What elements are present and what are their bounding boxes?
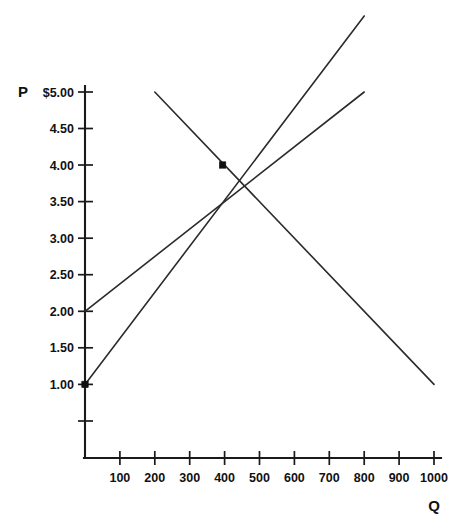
y-label-400: 4.00 — [50, 159, 74, 173]
chart-canvas: $5.00 4.50 4.00 3.50 3.00 2.50 2.00 1.50… — [0, 0, 468, 529]
y-label-100: 1.00 — [50, 378, 74, 392]
y-label-450: 4.50 — [50, 122, 74, 136]
x-label-1000: 1000 — [420, 471, 448, 485]
supply-curve-upper — [85, 92, 364, 311]
x-label-500: 500 — [249, 471, 270, 485]
x-label-400: 400 — [214, 471, 235, 485]
y-label-150: 1.50 — [50, 341, 74, 355]
x-label-600: 600 — [284, 471, 305, 485]
x-label-100: 100 — [109, 471, 130, 485]
x-axis-title: Q — [428, 497, 440, 514]
y-tick-labels-group: $5.00 4.50 4.00 3.50 3.00 2.50 2.00 1.50… — [43, 86, 74, 392]
marker-equilibrium — [219, 162, 225, 168]
x-label-800: 800 — [354, 471, 375, 485]
x-tick-labels-group: 100 200 300 400 500 600 700 800 900 1000 — [109, 471, 447, 485]
x-label-900: 900 — [389, 471, 410, 485]
x-label-200: 200 — [144, 471, 165, 485]
axes-group — [84, 86, 441, 458]
supply-demand-chart: $5.00 4.50 4.00 3.50 3.00 2.50 2.00 1.50… — [0, 0, 468, 529]
y-label-350: 3.50 — [50, 195, 74, 209]
curves-group — [85, 16, 434, 384]
y-label-300: 3.00 — [50, 232, 74, 246]
markers-group — [82, 162, 226, 388]
axis-titles-group: P Q — [18, 83, 440, 514]
x-label-300: 300 — [179, 471, 200, 485]
y-label-500: $5.00 — [43, 86, 74, 100]
y-label-250: 2.50 — [50, 268, 74, 282]
supply-curve-lower — [85, 16, 364, 384]
marker-origin-intercept — [82, 381, 88, 387]
y-label-200: 2.00 — [50, 305, 74, 319]
y-axis-title: P — [18, 83, 28, 100]
x-label-700: 700 — [319, 471, 340, 485]
